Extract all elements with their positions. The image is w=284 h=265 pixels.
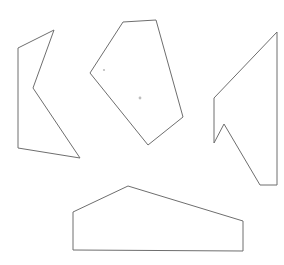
speck-upper-artifact [103,69,105,71]
figure-canvas [0,0,284,265]
figure-background [0,0,284,265]
polygon-figure [0,0,284,265]
speck-lower-artifact [139,97,142,100]
